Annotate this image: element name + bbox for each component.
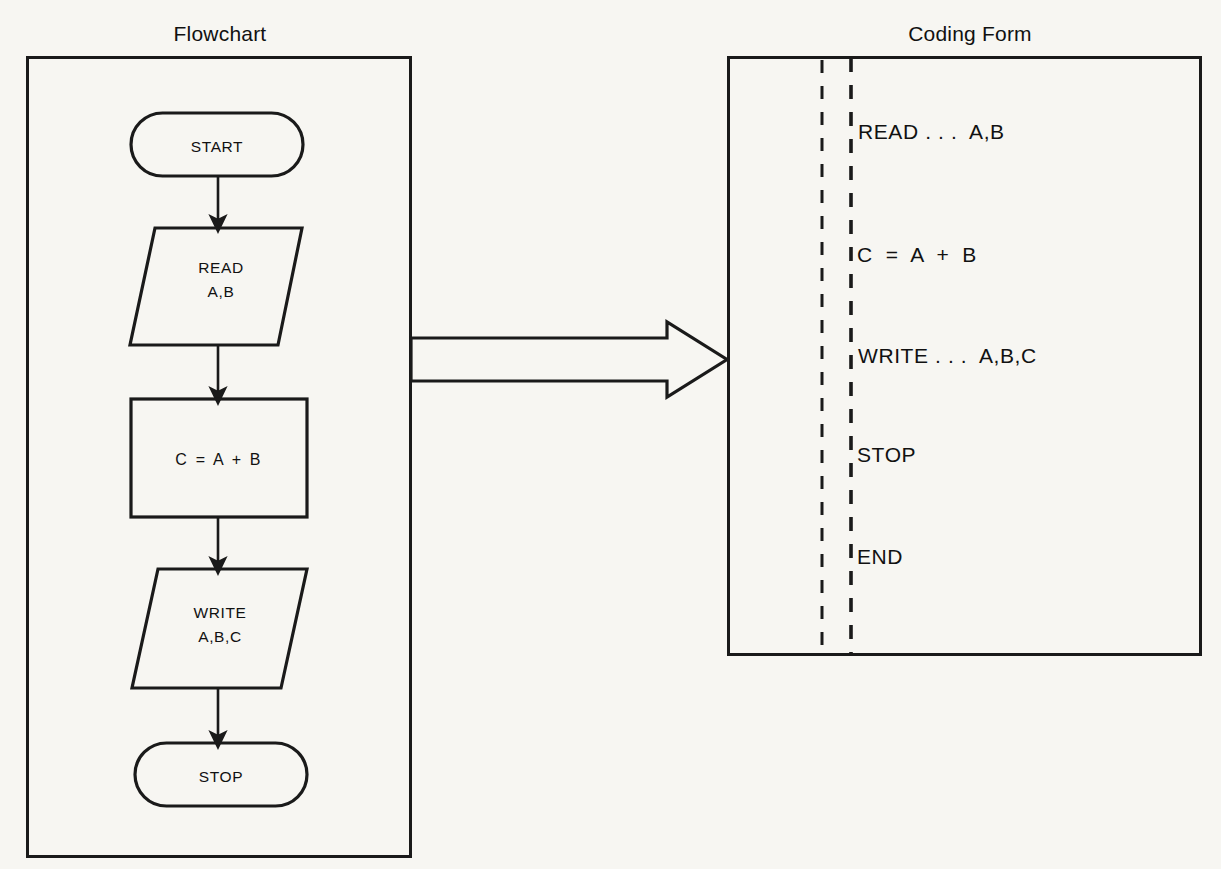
block-arrow-right-icon (411, 322, 727, 397)
coding-form-line-write: WRITE . . . A,B,C (858, 344, 1037, 368)
coding-form-line-assign: C = A + B (857, 243, 977, 267)
flowchart-panel-title: Flowchart (60, 22, 380, 46)
coding-form-panel-title: Coding Form (810, 22, 1130, 46)
coding-form-line-stop: STOP (857, 443, 916, 467)
flowchart-panel-frame (26, 56, 412, 858)
coding-form-line-end: END (857, 545, 903, 569)
coding-form-line-read: READ . . . A,B (858, 120, 1005, 144)
diagram-canvas: Flowchart Coding Form (0, 0, 1221, 869)
